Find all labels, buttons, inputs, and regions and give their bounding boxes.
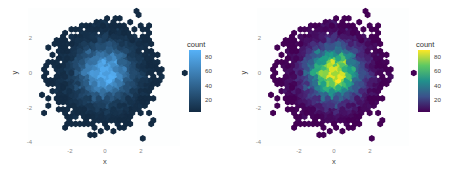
legend-label-20: 20	[205, 97, 212, 103]
y-tick-0: 0	[18, 70, 32, 76]
x-tick-0: 0	[98, 148, 112, 154]
y-axis-title: y	[239, 71, 248, 75]
y-tick-2: 2	[18, 35, 32, 41]
x-tick-neg2: -2	[63, 148, 77, 154]
legend-label-60: 60	[205, 68, 212, 74]
legend-colorbar	[418, 50, 430, 112]
legend-title: count	[187, 40, 205, 49]
panel-left-hexbin: 2 0 -2 -4 -2 0 2 x y count 80 60 40 20	[0, 0, 227, 175]
x-tick-0: 0	[327, 148, 341, 154]
y-tick-2: 2	[247, 35, 261, 41]
legend-label-80: 80	[205, 54, 212, 60]
y-tick-0: 0	[247, 70, 261, 76]
x-tick-2: 2	[363, 148, 377, 154]
legend-title: count	[416, 40, 434, 49]
y-tick-neg2: -2	[247, 105, 261, 111]
x-tick-neg2: -2	[292, 148, 306, 154]
y-tick-neg4: -4	[18, 139, 32, 145]
x-tick-2: 2	[134, 148, 148, 154]
legend-label-80: 80	[434, 54, 441, 60]
y-tick-neg4: -4	[247, 139, 261, 145]
legend-colorbar	[189, 50, 201, 112]
y-axis-title: y	[10, 71, 19, 75]
x-axis-title: x	[103, 157, 107, 166]
x-axis-title: x	[332, 157, 336, 166]
y-tick-neg2: -2	[18, 105, 32, 111]
legend-label-40: 40	[434, 83, 441, 89]
panel-right-hexbin: 2 0 -2 -4 -2 0 2 x y count 80 60 40 20	[229, 0, 454, 175]
legend-label-60: 60	[434, 68, 441, 74]
legend-label-40: 40	[205, 83, 212, 89]
legend-label-20: 20	[434, 97, 441, 103]
